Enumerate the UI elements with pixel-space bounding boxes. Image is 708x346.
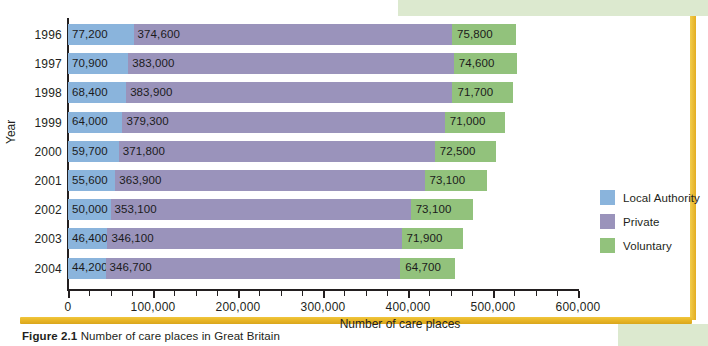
- figure-caption-number: Figure 2.1: [22, 330, 77, 342]
- bar-value-label: 64,000: [72, 116, 108, 128]
- bar-value-label: 46,400: [72, 233, 108, 245]
- bar-value-label: 75,800: [457, 29, 493, 41]
- x-tick-minor: [89, 291, 90, 296]
- bar-value-label: 71,000: [450, 116, 486, 128]
- x-tick-minor: [174, 291, 175, 296]
- bar-row: 68,400383,90071,700: [68, 82, 513, 103]
- bar-value-label: 77,200: [72, 29, 108, 41]
- bar-segment-voluntary: 74,600: [454, 53, 517, 74]
- bar-row: 55,600363,90073,100: [68, 170, 487, 191]
- bar-value-label: 363,900: [119, 175, 161, 187]
- bar-segment-private: 379,300: [122, 112, 444, 133]
- bar-segment-private: 371,800: [119, 141, 435, 162]
- legend-item-label: Voluntary: [623, 240, 672, 252]
- bar-segment-private: 374,600: [134, 24, 452, 45]
- chart-legend: Local AuthorityPrivateVoluntary: [600, 190, 700, 262]
- x-axis-tick-label: 100,000: [131, 300, 176, 314]
- y-axis-tick-label: 2004: [20, 262, 62, 276]
- bar-value-label: 59,700: [72, 146, 108, 158]
- bar-segment-private: 383,000: [128, 53, 454, 74]
- legend-item-private: Private: [600, 214, 700, 229]
- bar-segment-local-authority: 64,000: [68, 112, 122, 133]
- bar-segment-private: 383,900: [126, 82, 452, 103]
- bar-value-label: 346,700: [110, 262, 152, 274]
- bar-value-label: 74,600: [459, 58, 495, 70]
- x-tick-minor: [387, 291, 388, 296]
- bar-segment-local-authority: 59,700: [68, 141, 119, 162]
- bar-segment-local-authority: 55,600: [68, 170, 115, 191]
- x-axis-tick-label: 0: [65, 300, 72, 314]
- bar-row: 70,900383,00074,600: [68, 53, 517, 74]
- bar-value-label: 73,100: [416, 204, 452, 216]
- bar-value-label: 73,100: [430, 175, 466, 187]
- bar-segment-private: 346,700: [106, 258, 401, 279]
- x-tick-minor: [536, 291, 537, 296]
- bar-segment-voluntary: 71,700: [452, 82, 513, 103]
- x-tick-minor: [259, 291, 260, 296]
- x-axis-tick-label: 600,000: [556, 300, 601, 314]
- figure-caption: Figure 2.1 Number of care places in Grea…: [22, 330, 280, 346]
- x-tick-minor: [344, 291, 345, 296]
- bar-value-label: 71,700: [457, 87, 493, 99]
- bar-row: 77,200374,60075,800: [68, 24, 516, 45]
- y-axis-tick-label: 2001: [20, 174, 62, 188]
- x-tick-major: [238, 291, 240, 298]
- x-axis-tick-label: 300,000: [301, 300, 346, 314]
- bar-segment-local-authority: 70,900: [68, 53, 128, 74]
- y-axis-tick-label: 1998: [20, 86, 62, 100]
- x-tick-minor: [472, 291, 473, 296]
- bar-segment-voluntary: 73,100: [411, 199, 473, 220]
- bar-row: 46,400346,10071,900: [68, 228, 463, 249]
- bar-value-label: 55,600: [72, 175, 108, 187]
- bar-value-label: 70,900: [72, 58, 108, 70]
- x-axis-title: Number of care places: [340, 317, 461, 331]
- x-tick-minor: [429, 291, 430, 296]
- x-tick-minor: [302, 291, 303, 296]
- x-tick-minor: [132, 291, 133, 296]
- bar-value-label: 68,400: [72, 87, 108, 99]
- legend-item-local-authority: Local Authority: [600, 190, 700, 205]
- bar-row: 44,200346,70064,700: [68, 258, 455, 279]
- x-axis-tick-label: 200,000: [216, 300, 261, 314]
- x-tick-minor: [217, 291, 218, 296]
- x-axis-tick-label: 400,000: [386, 300, 431, 314]
- bar-value-label: 379,300: [126, 116, 168, 128]
- bar-segment-voluntary: 71,000: [445, 112, 505, 133]
- x-tick-minor: [281, 291, 282, 296]
- bar-segment-voluntary: 72,500: [435, 141, 497, 162]
- x-tick-minor: [196, 291, 197, 296]
- y-axis-tick-label: 1997: [20, 57, 62, 71]
- y-axis-tick-label: 2003: [20, 232, 62, 246]
- x-tick-major: [153, 291, 155, 298]
- x-tick-minor: [366, 291, 367, 296]
- bar-value-label: 72,500: [440, 146, 476, 158]
- bar-segment-private: 346,100: [107, 228, 401, 249]
- figure-caption-text: Number of care places in Great Britain: [81, 330, 280, 342]
- bar-rows: 77,200374,60075,80070,900383,00074,60068…: [0, 12, 692, 312]
- bar-value-label: 383,000: [132, 58, 174, 70]
- y-axis-tick-label: 1999: [20, 116, 62, 130]
- bar-segment-voluntary: 73,100: [425, 170, 487, 191]
- x-tick-major: [408, 291, 410, 298]
- x-tick-major: [493, 291, 495, 298]
- bar-row: 64,000379,30071,000: [68, 112, 505, 133]
- bar-segment-voluntary: 75,800: [452, 24, 516, 45]
- bar-value-label: 371,800: [123, 146, 165, 158]
- x-tick-major: [578, 291, 580, 298]
- x-tick-major: [68, 291, 70, 298]
- bar-value-label: 374,600: [138, 29, 180, 41]
- bar-row: 50,000353,10073,100: [68, 199, 473, 220]
- bar-segment-local-authority: 46,400: [68, 228, 107, 249]
- bar-segment-local-authority: 77,200: [68, 24, 134, 45]
- x-axis-tick-label: 500,000: [471, 300, 516, 314]
- x-tick-minor: [111, 291, 112, 296]
- bar-value-label: 71,900: [407, 233, 443, 245]
- legend-swatch-icon: [600, 238, 615, 253]
- bar-segment-private: 363,900: [115, 170, 424, 191]
- bar-segment-local-authority: 50,000: [68, 199, 111, 220]
- legend-item-voluntary: Voluntary: [600, 238, 700, 253]
- figure-page: Year 77,200374,60075,80070,900383,00074,…: [0, 0, 708, 346]
- x-tick-major: [323, 291, 325, 298]
- legend-item-label: Local Authority: [623, 192, 700, 204]
- x-tick-minor: [514, 291, 515, 296]
